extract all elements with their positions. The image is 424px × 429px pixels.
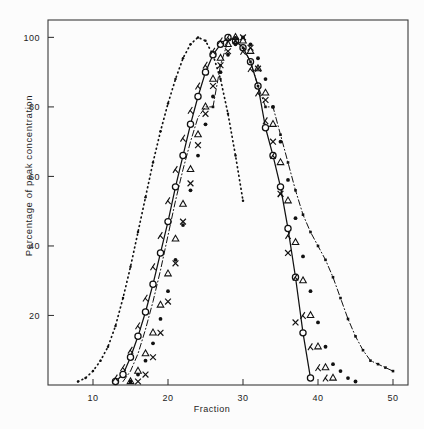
series-dotted-leading <box>77 36 245 383</box>
y-tick-label: 100 <box>23 33 40 43</box>
x-tick-label: 30 <box>237 393 248 403</box>
series-dash-dot-trailing <box>212 36 395 372</box>
plot-frame <box>48 20 408 385</box>
y-tick-label: 40 <box>29 241 40 251</box>
plot-canvas: 102030405020406080100 <box>0 0 424 429</box>
y-tick-label: 20 <box>29 311 40 321</box>
x-tick-label: 40 <box>312 393 323 403</box>
x-tick-label: 50 <box>387 393 398 403</box>
chromatography-elution-figure: Percentage of peak concentration Fractio… <box>0 0 424 429</box>
x-tick-label: 10 <box>87 393 98 403</box>
data-series-group <box>77 34 395 385</box>
y-tick-label: 80 <box>29 102 40 112</box>
y-tick-label: 60 <box>29 172 40 182</box>
series-x-marker <box>135 34 298 384</box>
x-tick-label: 20 <box>162 393 173 403</box>
